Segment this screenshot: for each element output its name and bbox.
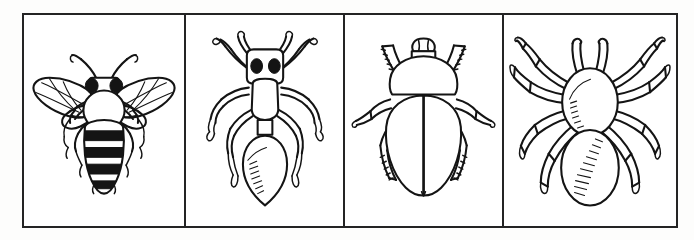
spider-illustration bbox=[504, 15, 676, 226]
panel-spider[interactable]: Spider bbox=[504, 15, 676, 226]
panel-beetle[interactable]: Beetle bbox=[345, 15, 504, 226]
illustration-sheet: Bee bbox=[0, 0, 694, 240]
beetle-illustration bbox=[345, 15, 502, 226]
bee-illustration bbox=[24, 15, 184, 226]
bee-eye-left bbox=[85, 78, 98, 93]
panel-ant[interactable]: Ant bbox=[186, 15, 345, 226]
ant-eye-right bbox=[268, 59, 280, 74]
ant-eye-left bbox=[251, 59, 263, 74]
panel-bee[interactable]: Bee bbox=[24, 15, 186, 226]
ant-illustration bbox=[186, 15, 343, 226]
bee-eye-right bbox=[110, 78, 123, 93]
panel-frame: Bee bbox=[22, 13, 678, 228]
